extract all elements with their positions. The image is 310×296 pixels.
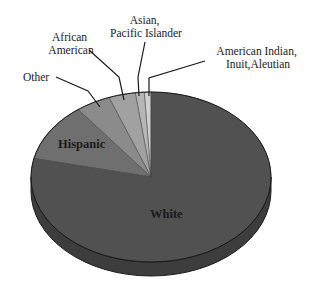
leader-line-american-indian: [149, 61, 205, 96]
leader-line-african-american: [89, 50, 124, 100]
pie-chart: Other African American Asian, Pacific Is…: [0, 0, 310, 296]
label-other: Other: [23, 71, 49, 83]
label-hispanic: Hispanic: [58, 137, 106, 151]
leader-line-asian: [138, 42, 145, 96]
label-american-indian: American Indian, Inuit,Aleutian: [216, 45, 299, 71]
pie-slices: [31, 92, 271, 262]
label-asian-pacific-islander: Asian, Pacific Islander: [110, 14, 182, 39]
label-african-american: African American: [48, 31, 94, 56]
label-white: White: [150, 207, 183, 221]
